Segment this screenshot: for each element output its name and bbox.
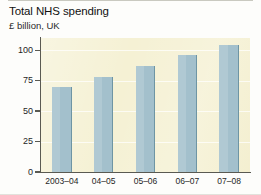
y-axis-tick — [35, 171, 41, 172]
y-axis-label: 25 — [3, 137, 33, 146]
y-axis-label: 0 — [3, 168, 33, 177]
y-axis-tick — [35, 50, 41, 51]
bar-highlight — [178, 55, 186, 172]
bar-highlight — [52, 87, 60, 172]
y-axis-label: 50 — [3, 107, 33, 116]
bar — [178, 55, 197, 172]
footer-divider — [0, 194, 261, 195]
chart-figure: Total NHS spending £ billion, UK 0255075… — [0, 0, 261, 195]
bar-highlight — [94, 77, 102, 172]
y-axis-line — [40, 37, 41, 173]
x-axis-line — [40, 172, 251, 173]
bar — [219, 45, 238, 172]
y-axis-labels: 0255075100 — [0, 0, 33, 195]
bar — [136, 66, 155, 172]
y-axis-tick — [35, 141, 41, 142]
x-axis-label: 04–05 — [92, 176, 116, 186]
x-axis-label: 07–08 — [217, 176, 241, 186]
y-axis-label: 100 — [3, 46, 33, 55]
x-axis-label: 05–06 — [134, 176, 158, 186]
bar — [94, 77, 113, 172]
x-axis-label: 2003–04 — [45, 176, 78, 186]
plot-area — [41, 38, 250, 172]
y-axis-tick — [35, 80, 41, 81]
bar-highlight — [136, 66, 144, 172]
bar — [52, 87, 71, 172]
header-divider — [8, 0, 253, 1]
bar-highlight — [219, 45, 227, 172]
y-axis-label: 75 — [3, 76, 33, 85]
x-axis-label: 06–07 — [175, 176, 199, 186]
y-axis-tick — [35, 110, 41, 111]
